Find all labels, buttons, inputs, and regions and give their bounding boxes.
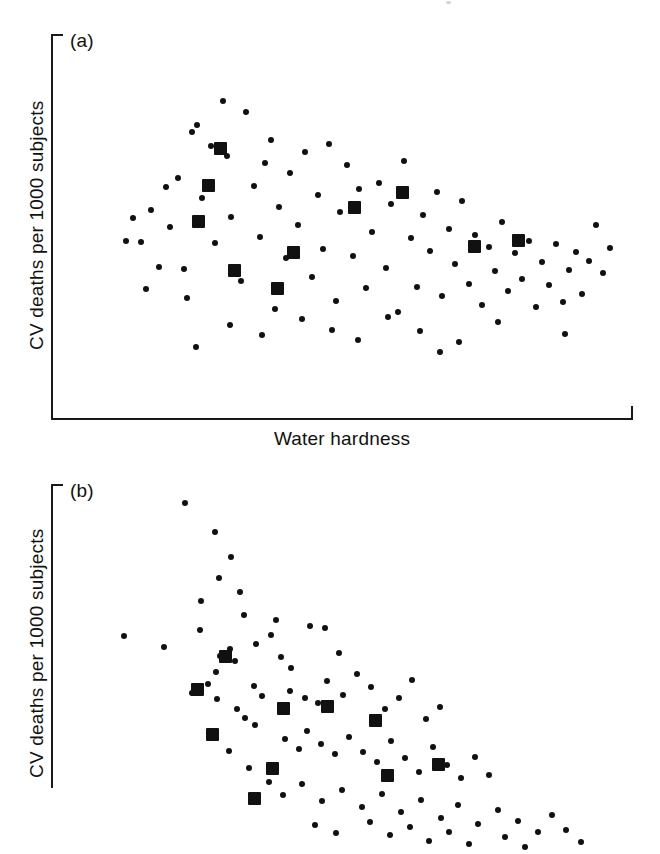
- small-circle-marker: [573, 249, 579, 255]
- small-circle-marker: [459, 198, 465, 204]
- small-circle-marker: [299, 316, 305, 322]
- small-circle-marker: [199, 195, 205, 201]
- large-square-marker: [192, 215, 205, 228]
- small-circle-marker: [446, 226, 452, 232]
- large-square-marker: [381, 769, 394, 782]
- large-square-marker: [202, 179, 215, 192]
- small-circle-marker: [214, 696, 220, 702]
- small-circle-marker: [241, 612, 247, 618]
- small-circle-marker: [182, 500, 188, 506]
- small-circle-marker: [446, 829, 452, 835]
- small-circle-marker: [369, 229, 375, 235]
- small-circle-marker: [295, 222, 301, 228]
- small-circle-marker: [243, 109, 249, 115]
- small-circle-marker: [189, 129, 195, 135]
- small-circle-marker: [288, 665, 294, 671]
- small-circle-marker: [458, 775, 464, 781]
- small-circle-marker: [549, 812, 555, 818]
- small-circle-marker: [238, 278, 244, 284]
- small-circle-marker: [273, 617, 279, 623]
- small-circle-marker: [566, 267, 572, 273]
- small-circle-marker: [337, 209, 343, 215]
- small-circle-marker: [252, 722, 258, 728]
- small-circle-marker: [318, 741, 324, 747]
- large-square-marker: [191, 683, 204, 696]
- panel-b-plot-area: [51, 484, 633, 854]
- small-circle-marker: [181, 266, 187, 272]
- small-circle-marker: [246, 765, 252, 771]
- small-circle-marker: [272, 306, 278, 312]
- small-circle-marker: [163, 184, 169, 190]
- small-circle-marker: [382, 706, 388, 712]
- small-circle-marker: [533, 304, 539, 310]
- large-square-marker: [348, 201, 361, 214]
- panel-b: CV deaths per 1000 subjects (b): [0, 460, 660, 788]
- small-circle-marker: [356, 186, 362, 192]
- small-circle-marker: [302, 149, 308, 155]
- panel-b-y-axis-label: CV deaths per 1000 subjects: [26, 529, 48, 778]
- small-circle-marker: [475, 821, 481, 827]
- small-circle-marker: [519, 276, 525, 282]
- small-circle-marker: [326, 141, 332, 147]
- small-circle-marker: [262, 160, 268, 166]
- small-circle-marker: [396, 695, 402, 701]
- large-square-marker: [228, 264, 241, 277]
- small-circle-marker: [586, 258, 592, 264]
- small-circle-marker: [439, 293, 445, 299]
- small-circle-marker: [121, 633, 127, 639]
- small-circle-marker: [232, 658, 238, 664]
- small-circle-marker: [363, 285, 369, 291]
- small-circle-marker: [123, 238, 129, 244]
- small-circle-marker: [282, 736, 288, 742]
- small-circle-marker: [161, 644, 167, 650]
- small-circle-marker: [374, 759, 380, 765]
- small-circle-marker: [515, 818, 521, 824]
- small-circle-marker: [205, 681, 211, 687]
- small-circle-marker: [242, 715, 248, 721]
- small-circle-marker: [495, 807, 501, 813]
- small-circle-marker: [320, 246, 326, 252]
- small-circle-marker: [398, 809, 404, 815]
- small-circle-marker: [226, 748, 232, 754]
- small-circle-marker: [563, 827, 569, 833]
- small-circle-marker: [268, 632, 274, 638]
- small-circle-marker: [228, 214, 234, 220]
- small-circle-marker: [479, 302, 485, 308]
- small-circle-marker: [456, 339, 462, 345]
- small-circle-marker: [227, 322, 233, 328]
- small-circle-marker: [175, 175, 181, 181]
- small-circle-marker: [376, 180, 382, 186]
- small-circle-marker: [296, 746, 302, 752]
- small-circle-marker: [197, 627, 203, 633]
- small-circle-marker: [278, 654, 284, 660]
- small-circle-marker: [212, 240, 218, 246]
- small-circle-marker: [302, 695, 308, 701]
- small-circle-marker: [344, 162, 350, 168]
- small-circle-marker: [502, 834, 508, 840]
- small-circle-marker: [346, 734, 352, 740]
- small-circle-marker: [418, 797, 424, 803]
- large-square-marker: [277, 702, 290, 715]
- small-circle-marker: [251, 683, 257, 689]
- large-square-marker: [248, 792, 261, 805]
- small-circle-marker: [495, 319, 501, 325]
- small-circle-marker: [268, 137, 274, 143]
- large-square-marker: [396, 186, 409, 199]
- small-circle-marker: [280, 792, 286, 798]
- small-circle-marker: [407, 824, 413, 830]
- small-circle-marker: [492, 268, 498, 274]
- small-circle-marker: [426, 838, 432, 844]
- small-circle-marker: [309, 274, 315, 280]
- panel-a: CV deaths per 1000 subjects (a) Water ha…: [0, 0, 660, 460]
- small-circle-marker: [379, 791, 385, 797]
- small-circle-marker: [340, 692, 346, 698]
- large-square-marker: [287, 246, 300, 259]
- small-circle-marker: [339, 787, 345, 793]
- small-circle-marker: [307, 623, 313, 629]
- large-square-marker: [271, 282, 284, 295]
- large-square-marker: [432, 758, 445, 771]
- small-circle-marker: [130, 215, 136, 221]
- small-circle-marker: [472, 232, 478, 238]
- large-square-marker: [266, 762, 279, 775]
